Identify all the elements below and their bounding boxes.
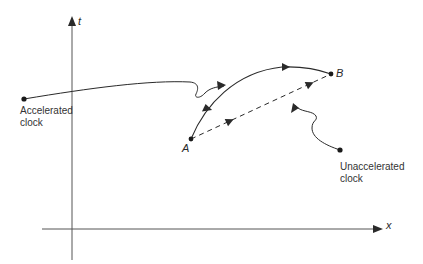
event-b-dot	[329, 72, 334, 77]
accelerated-clock-label-line2: clock	[20, 117, 73, 129]
accelerated-clock-label: Accelerated clock	[20, 105, 73, 129]
pointer-arrow-icon	[217, 81, 226, 90]
worldline-arrow-icon	[282, 63, 290, 71]
worldline-arrow-icon	[305, 79, 316, 90]
accelerated-clock-dot	[21, 96, 26, 101]
accelerated-clock-pointer	[21, 81, 226, 102]
event-a-label: A	[182, 142, 189, 154]
accelerated-worldline	[191, 63, 331, 139]
worldline-arrow-icon	[225, 116, 236, 127]
x-axis-label: x	[386, 219, 392, 231]
unaccelerated-clock-dot	[337, 147, 342, 152]
unaccelerated-worldline	[191, 74, 331, 139]
unaccelerated-clock-label-line1: Unaccelerated	[340, 161, 404, 173]
t-axis-label: t	[78, 15, 81, 27]
event-b-label: B	[336, 67, 343, 79]
accelerated-clock-label-line1: Accelerated	[20, 105, 73, 117]
spacetime-diagram	[0, 0, 423, 264]
x-axis	[42, 225, 383, 233]
unaccelerated-clock-pointer	[291, 103, 343, 153]
unaccelerated-clock-label: Unaccelerated clock	[340, 161, 404, 185]
x-axis-arrow-icon	[373, 225, 383, 233]
t-axis-arrow-icon	[68, 16, 76, 26]
event-a-dot	[189, 137, 194, 142]
pointer-arrow-icon	[291, 103, 299, 113]
t-axis	[68, 16, 76, 260]
unaccelerated-clock-label-line2: clock	[340, 173, 404, 185]
